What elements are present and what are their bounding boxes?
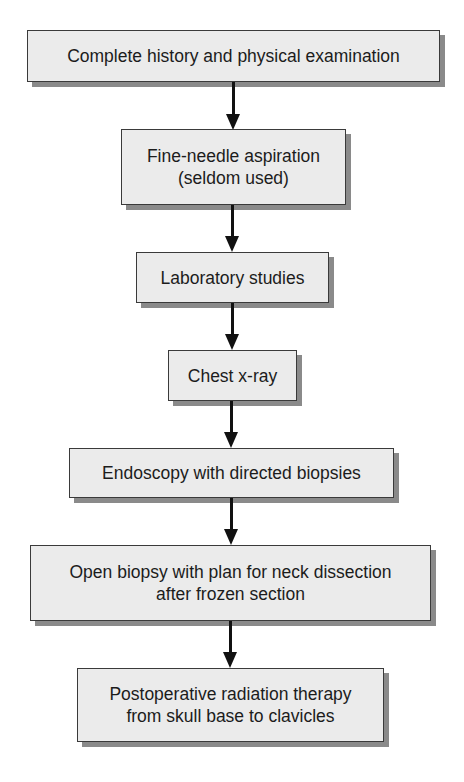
step-6-text-line-2: after frozen section bbox=[156, 583, 305, 605]
step-2-fine-needle-aspiration-box: Fine-needle aspiration (seldom used) bbox=[121, 129, 346, 205]
step-3-laboratory-studies-box: Laboratory studies bbox=[136, 252, 329, 303]
step-4-text: Chest x-ray bbox=[188, 365, 277, 387]
step-4-chest-xray-box: Chest x-ray bbox=[168, 350, 297, 401]
step-2-text-line-1: Fine-needle aspiration bbox=[147, 145, 320, 167]
step-6-text-line-1: Open biopsy with plan for neck dissectio… bbox=[70, 561, 392, 583]
step-5-endoscopy-box: Endoscopy with directed biopsies bbox=[69, 448, 394, 498]
step-7-radiation-therapy-box: Postoperative radiation therapy from sku… bbox=[77, 668, 384, 742]
step-7-text-line-2: from skull base to clavicles bbox=[126, 705, 334, 727]
step-5-text: Endoscopy with directed biopsies bbox=[102, 462, 361, 484]
step-1-text: Complete history and physical examinatio… bbox=[67, 45, 400, 67]
step-7-text-line-1: Postoperative radiation therapy bbox=[109, 683, 351, 705]
step-1-history-exam-box: Complete history and physical examinatio… bbox=[27, 30, 440, 82]
step-3-text: Laboratory studies bbox=[161, 267, 305, 289]
step-2-text-line-2: (seldom used) bbox=[178, 167, 289, 189]
step-6-open-biopsy-box: Open biopsy with plan for neck dissectio… bbox=[30, 545, 431, 621]
